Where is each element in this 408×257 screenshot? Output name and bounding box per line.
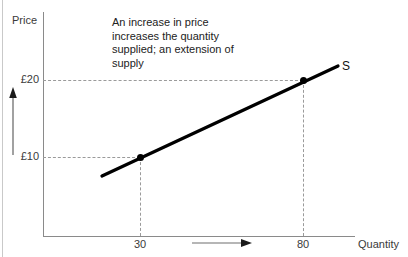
supply-curve-figure: Price Quantity £20 £10 30 80 S An increa… xyxy=(0,0,408,257)
y-tick-label-10: £10 xyxy=(8,150,39,162)
annotation-text: An increase in price increases the quant… xyxy=(112,16,242,70)
data-point-80-20 xyxy=(300,77,307,84)
guide-line-price-10 xyxy=(43,157,140,158)
x-tick-label-80: 80 xyxy=(289,238,317,250)
y-axis-line xyxy=(43,12,44,236)
guide-line-quantity-30 xyxy=(140,157,141,236)
data-point-30-10 xyxy=(137,154,144,161)
guide-line-quantity-80 xyxy=(303,80,304,236)
supply-curve-label: S xyxy=(342,59,350,73)
guide-line-price-20 xyxy=(43,80,303,81)
x-tick-label-30: 30 xyxy=(126,238,154,250)
page-left-border xyxy=(2,0,3,257)
cropped-header-text xyxy=(8,0,338,3)
x-axis-line xyxy=(43,236,355,237)
y-tick-label-20: £20 xyxy=(8,73,39,85)
x-axis-title: Quantity xyxy=(358,238,399,250)
y-axis-title: Price xyxy=(12,14,37,26)
